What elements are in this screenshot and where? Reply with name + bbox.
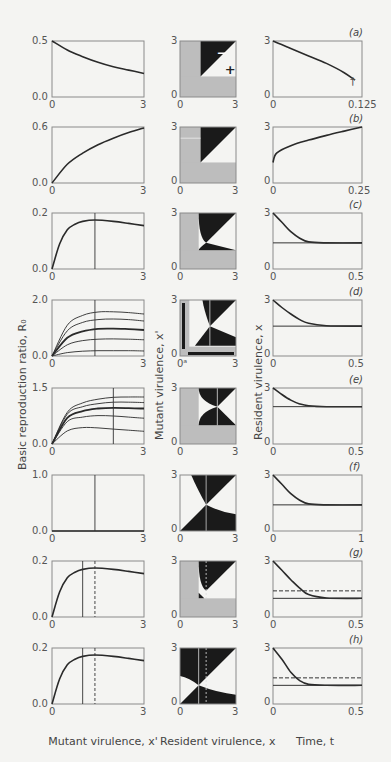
ts-ymax-tick: 3 [264, 294, 270, 305]
plot-frame [273, 388, 362, 444]
panel-tag-b: (b) [349, 113, 363, 124]
panel-tag-a: (a) [349, 27, 363, 38]
pip-ymax-tick: 3 [171, 382, 177, 393]
col1-x-axis-label: Mutant virulence, x' [48, 735, 158, 748]
plots-canvas [0, 0, 391, 762]
plot-frame [52, 127, 144, 183]
r0-xmax-tick: 3 [140, 99, 146, 110]
r0-ymax-tick: 0.2 [32, 642, 48, 653]
figure: 0.50.003−+3003†3000.125(a)0.60.003300330… [0, 0, 391, 762]
r0-ymax-tick: 1.0 [32, 469, 48, 480]
r0-ymin-tick: 0.0 [32, 611, 48, 622]
resident-virulence-curve [273, 561, 362, 598]
r0-xmax-tick: 3 [140, 706, 146, 717]
pip-xmax-tick: 3 [232, 99, 238, 110]
resident-virulence-curve [273, 213, 362, 243]
plot-frame [52, 648, 144, 704]
pip-xmin-tick: 0 [177, 619, 183, 630]
resident-virulence-curve [273, 41, 355, 80]
ts-xmax-tick: 0.125 [348, 99, 377, 110]
pip-xmin-tick: 0 [177, 446, 183, 457]
plot-frame [273, 127, 362, 183]
panel-row-e [52, 388, 362, 444]
panel-tag-g: (g) [349, 547, 363, 558]
panel-tag-f: (f) [349, 461, 360, 472]
r0-xmax-tick: 3 [140, 446, 146, 457]
plot-frame [52, 475, 144, 531]
plot-frame [273, 41, 362, 97]
pip-negative-region [188, 352, 234, 355]
ts-xmin-tick: 0 [270, 533, 276, 544]
r0-curve [52, 339, 144, 356]
ts-xmin-tick: 0 [270, 271, 276, 282]
resident-virulence-curve [273, 475, 362, 505]
r0-curve [52, 312, 144, 356]
pip-ymax-tick: 3 [171, 294, 177, 305]
r0-ymax-tick: 0.2 [32, 207, 48, 218]
pip-ymax-tick: 3 [171, 469, 177, 480]
r0-ymin-tick: 0.0 [32, 91, 48, 102]
panel-row-a [52, 41, 362, 97]
pip-gray-region [180, 425, 236, 444]
pip-negative-region [182, 303, 185, 349]
col1-y-axis-label: Basic reproduction ratio, R₀ [16, 319, 29, 470]
ts-ymax-tick: 3 [264, 469, 270, 480]
pip-xmin-tick: 0ᵃ [177, 358, 187, 369]
ts-xmin-tick: 0 [270, 99, 276, 110]
pip-gray-region [180, 598, 236, 617]
pip-ymax-tick: 3 [171, 207, 177, 218]
r0-ymin-tick: 0.0 [32, 698, 48, 709]
col3-y-axis-label: Resident virulence, x [252, 325, 265, 440]
ts-xmin-tick: 0 [270, 619, 276, 630]
ts-ymax-tick: 3 [264, 35, 270, 46]
pip-plus-sign: + [225, 62, 236, 77]
panel-row-h [52, 648, 362, 704]
plot-frame [273, 213, 362, 269]
panel-tag-h: (h) [349, 634, 363, 645]
panel-tag-e: (e) [349, 374, 363, 385]
r0-xmax-tick: 3 [140, 533, 146, 544]
plot-frame [52, 561, 144, 617]
resident-virulence-curve [273, 300, 362, 326]
ts-xmax-tick: 0.25 [348, 185, 370, 196]
r0-curve [52, 220, 144, 269]
r0-xmin-tick: 0 [49, 446, 55, 457]
r0-xmin-tick: 0 [49, 706, 55, 717]
ts-xmax-tick: 0.5 [348, 706, 364, 717]
r0-curve [52, 655, 144, 704]
ts-xmax-tick: 0.5 [348, 619, 364, 630]
extinction-dagger: † [350, 75, 356, 88]
r0-xmin-tick: 0 [49, 185, 55, 196]
r0-curve [52, 351, 144, 356]
pip-xmin-tick: 0 [177, 99, 183, 110]
pip-ymax-tick: 3 [171, 555, 177, 566]
ts-xmax-tick: 0.5 [348, 358, 364, 369]
pip-xmax-tick: 3 [232, 706, 238, 717]
panel-row-g [52, 561, 362, 617]
panel-row-f [52, 475, 362, 531]
pip-ymax-tick: 3 [171, 642, 177, 653]
r0-xmin-tick: 0 [49, 358, 55, 369]
r0-ymax-tick: 2.0 [32, 294, 48, 305]
r0-curve [52, 568, 144, 617]
ts-ymax-tick: 3 [264, 207, 270, 218]
pip-gray-region [180, 76, 236, 97]
ts-ymax-tick: 3 [264, 555, 270, 566]
ts-ymax-tick: 3 [264, 642, 270, 653]
col2-y-axis-label: Mutant virulence, x' [153, 331, 166, 441]
pip-xmax-tick: 3 [232, 446, 238, 457]
pip-xmax-tick: 3 [232, 271, 238, 282]
col3-x-axis-label: Time, t [270, 735, 360, 748]
ts-xmin-tick: 0 [270, 706, 276, 717]
panel-row-b [52, 127, 362, 183]
ts-xmax-tick: 1 [358, 533, 364, 544]
r0-ymin-tick: 0.0 [32, 525, 48, 536]
pip-xmin-tick: 0 [177, 185, 183, 196]
r0-ymin-tick: 0.0 [32, 350, 48, 361]
pip-gray-region [180, 162, 236, 183]
pip-minus-sign: − [216, 46, 226, 60]
ts-xmax-tick: 0.5 [348, 446, 364, 457]
pip-xmin-tick: 0 [177, 706, 183, 717]
r0-xmin-tick: 0 [49, 619, 55, 630]
pip-xmin-tick: 0 [177, 271, 183, 282]
